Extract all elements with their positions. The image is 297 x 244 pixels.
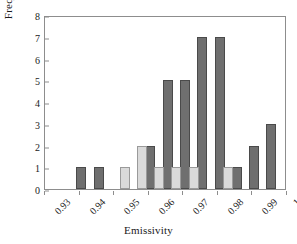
x-tick-mark xyxy=(217,191,218,195)
x-tick-label: 0.95 xyxy=(122,197,141,216)
x-tick-mark xyxy=(44,191,45,195)
x-tick-label: 0.94 xyxy=(88,197,107,216)
x-tick-label: 0.98 xyxy=(226,197,245,216)
histogram-bar xyxy=(137,146,147,190)
x-tick-label: 0.93 xyxy=(53,197,72,216)
x-tick-label: 1 xyxy=(291,197,297,208)
y-tick-mark xyxy=(45,82,49,83)
y-tick-label: 2 xyxy=(35,143,45,153)
x-tick-mark xyxy=(148,191,149,195)
y-tick-mark xyxy=(45,169,49,170)
histogram-bar xyxy=(223,167,233,189)
y-tick-mark xyxy=(45,38,49,39)
y-tick-label: 1 xyxy=(35,164,45,174)
x-tick-mark xyxy=(251,191,252,195)
histogram-bar xyxy=(232,167,242,189)
y-tick-mark xyxy=(45,17,49,18)
histogram-bar xyxy=(154,167,164,189)
histogram-bar xyxy=(197,37,207,189)
y-tick-mark xyxy=(45,125,49,126)
histogram-bar xyxy=(215,37,225,189)
y-tick-label: 8 xyxy=(35,12,45,22)
plot-area: 012345678 xyxy=(44,16,286,190)
histogram-bar xyxy=(266,124,276,189)
x-tick-mark xyxy=(113,191,114,195)
x-tick-label: 0.96 xyxy=(157,197,176,216)
histogram-bar xyxy=(76,167,86,189)
histogram-bar xyxy=(120,167,130,189)
y-tick-label: 6 xyxy=(35,56,45,66)
x-axis-title: Emissivity xyxy=(0,224,297,236)
x-tick-label: 0.97 xyxy=(191,197,210,216)
y-tick-mark xyxy=(45,147,49,148)
y-tick-label: 5 xyxy=(35,77,45,87)
y-axis-title: Frequency xyxy=(2,0,14,50)
y-tick-label: 7 xyxy=(35,34,45,44)
histogram-bar xyxy=(189,167,199,189)
y-tick-label: 3 xyxy=(35,121,45,131)
y-tick-mark xyxy=(45,104,49,105)
x-tick-mark xyxy=(79,191,80,195)
x-tick-mark xyxy=(286,191,287,195)
x-tick-mark xyxy=(182,191,183,195)
histogram-bar xyxy=(94,167,104,189)
x-tick-label: 0.99 xyxy=(261,197,280,216)
histogram-bar xyxy=(249,146,259,190)
y-tick-mark xyxy=(45,60,49,61)
y-tick-label: 4 xyxy=(35,99,45,109)
histogram-figure: Frequency 012345678 0.930.940.950.960.97… xyxy=(0,0,297,244)
histogram-bar xyxy=(171,167,181,189)
